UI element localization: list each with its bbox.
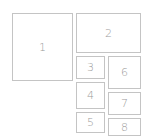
panel-2: 2 [76, 13, 141, 53]
panel-label: 4 [87, 90, 94, 101]
panel-label: 2 [105, 28, 112, 39]
panel-4: 4 [76, 82, 105, 109]
panel-1: 1 [12, 13, 73, 81]
panel-label: 1 [39, 42, 46, 53]
panel-6: 6 [108, 56, 141, 89]
panel-label: 5 [87, 117, 94, 128]
panel-5: 5 [76, 112, 105, 133]
panel-label: 7 [121, 98, 128, 109]
panel-label: 3 [87, 62, 94, 73]
panel-label: 6 [121, 67, 128, 78]
panel-label: 8 [121, 122, 128, 133]
panel-3: 3 [76, 56, 105, 79]
panel-7: 7 [108, 92, 141, 115]
panel-8: 8 [108, 118, 141, 136]
